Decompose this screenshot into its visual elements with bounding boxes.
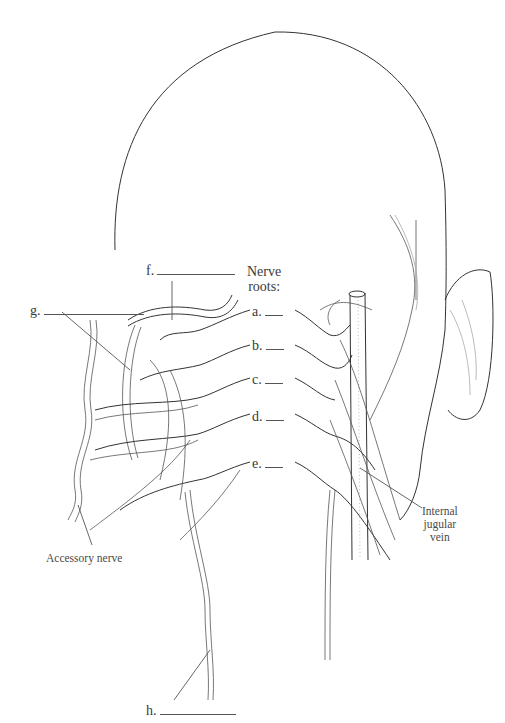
nerve-roots-left — [90, 310, 250, 530]
label-root-b: b. — [252, 338, 284, 353]
label-root-a: a. — [252, 304, 283, 319]
label-f: f. — [146, 263, 235, 278]
nerve-roots-right — [295, 300, 400, 560]
label-root-e: e. — [252, 456, 283, 471]
blank-f[interactable] — [157, 274, 235, 275]
blank-h[interactable] — [160, 714, 236, 715]
blank-c[interactable] — [265, 383, 283, 384]
neck-contour-right — [400, 330, 445, 520]
label-internal-jugular-vein: Internal jugular vein — [422, 505, 458, 544]
blank-a[interactable] — [265, 315, 283, 316]
blank-e[interactable] — [265, 467, 283, 468]
left-descending-nerve — [190, 490, 213, 700]
label-h: h. — [146, 703, 236, 718]
accessory-nerve — [68, 320, 91, 520]
blank-b[interactable] — [266, 349, 284, 350]
label-root-c: c. — [252, 372, 283, 387]
label-root-d: d. — [252, 409, 284, 424]
blank-g[interactable] — [44, 314, 144, 315]
blank-d[interactable] — [266, 420, 284, 421]
nerve-roots-heading: Nerve roots: — [247, 264, 281, 294]
label-accessory-nerve: Accessory nerve — [46, 552, 122, 565]
label-g: g. — [30, 303, 144, 318]
ear — [445, 270, 493, 420]
anatomy-illustration — [0, 0, 505, 723]
